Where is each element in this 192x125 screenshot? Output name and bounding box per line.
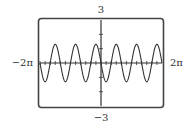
- ymin-label: −3: [94, 112, 109, 123]
- xmax-label: 2π: [170, 57, 183, 68]
- ymax-label: 3: [98, 4, 104, 15]
- graph-window: 3 −3 −2π 2π: [0, 0, 192, 125]
- xmin-label: −2π: [12, 57, 34, 68]
